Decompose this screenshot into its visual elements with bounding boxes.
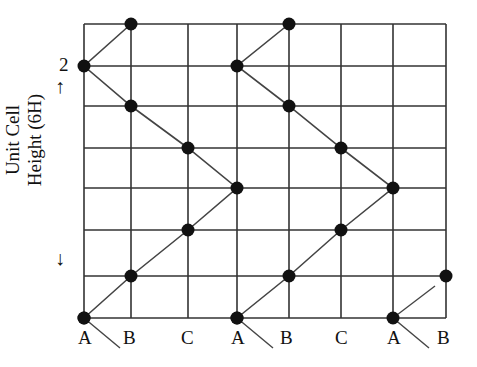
y-axis-label-line1: Unit Cell (2, 70, 24, 210)
x-label-a2: A (231, 328, 245, 347)
atom-dot (335, 142, 348, 155)
atom-dot (387, 182, 400, 195)
atom-dot (182, 224, 195, 237)
atom-dot (231, 182, 244, 195)
atom-dot (283, 270, 296, 283)
x-label-a1: A (78, 328, 92, 347)
stacking-sequence-graphic (0, 0, 477, 367)
atom-dot (335, 224, 348, 237)
x-label-b2: B (280, 328, 293, 347)
y-axis-label: Unit Cell Height (6H) (2, 70, 46, 210)
atom-dot (387, 312, 400, 325)
stacking-diagram: Unit Cell Height (6H) 2 ↑ ↓ A B C A B C … (0, 0, 477, 367)
y-axis-label-line2: Height (6H) (24, 70, 46, 210)
chain-1-bond (84, 24, 237, 318)
atom-dot (231, 60, 244, 73)
atom-dot (125, 18, 138, 31)
arrow-down-icon: ↓ (55, 248, 65, 268)
atom-dot (283, 18, 296, 31)
atom-dot (125, 270, 138, 283)
y-tick-label-2: 2 (59, 55, 69, 74)
atom-dot (440, 270, 453, 283)
x-label-a3: A (387, 328, 401, 347)
x-label-c2: C (335, 328, 348, 347)
atom-dot (182, 142, 195, 155)
x-label-b3: B (437, 328, 450, 347)
atom-dot (231, 312, 244, 325)
x-label-c1: C (181, 328, 194, 347)
atom-dot (125, 100, 138, 113)
atom-dot (283, 100, 296, 113)
atom-dot (78, 60, 91, 73)
atom-dot (78, 312, 91, 325)
partial-bond-line (393, 286, 435, 318)
chain-2-bond (237, 24, 393, 318)
x-label-b1: B (123, 328, 136, 347)
arrow-up-icon: ↑ (55, 76, 65, 96)
